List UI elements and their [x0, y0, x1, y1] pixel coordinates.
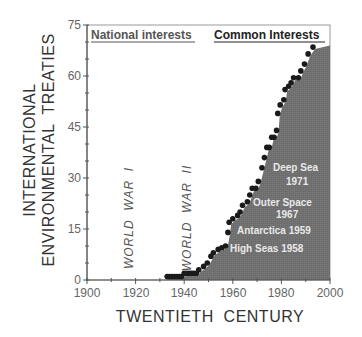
y-tick-30: 30 — [68, 171, 82, 185]
data-point — [253, 185, 259, 191]
data-point — [277, 102, 283, 108]
y-tick-45: 45 — [68, 120, 82, 134]
data-point — [230, 216, 236, 222]
data-point — [256, 179, 262, 185]
data-point — [225, 230, 231, 236]
x-tick-1940: 1940 — [171, 286, 198, 300]
data-point — [298, 68, 304, 74]
data-point — [262, 155, 268, 161]
outer-space-year-label: 1967 — [276, 209, 299, 220]
data-point — [305, 51, 311, 57]
data-point — [245, 199, 251, 205]
data-point — [296, 75, 302, 81]
data-point — [275, 111, 281, 117]
data-point — [274, 128, 280, 134]
data-point — [211, 250, 217, 256]
data-point — [271, 134, 277, 140]
data-point — [204, 260, 210, 266]
high-seas-label: High Seas 1958 — [230, 243, 304, 254]
x-axis-title: TWENTIETH CENTURY — [116, 308, 304, 325]
x-tick-1900: 1900 — [74, 286, 101, 300]
outer-space-label: Outer Space — [253, 197, 312, 208]
common-interests-label: Common Interests — [214, 28, 320, 42]
x-tick-1920: 1920 — [123, 286, 150, 300]
data-point — [259, 165, 265, 171]
data-point — [240, 202, 246, 208]
data-point — [288, 80, 294, 86]
data-point — [281, 97, 287, 103]
y-tick-75: 75 — [68, 18, 82, 32]
y-axis-title-line2: ENVIRONMENTAL TREATIES — [40, 33, 57, 266]
chart: 0 15 30 45 60 75 1900 1920 1940 1960 198… — [0, 0, 362, 337]
deep-sea-label: Deep Sea — [273, 162, 318, 173]
x-tick-2000: 2000 — [317, 286, 344, 300]
x-tick-1960: 1960 — [220, 286, 247, 300]
data-point — [310, 44, 316, 50]
national-interests-label: National interests — [91, 28, 192, 42]
deep-sea-year-label: 1971 — [286, 176, 309, 187]
y-tick-labels: 0 15 30 45 60 75 — [68, 18, 82, 287]
world-war-2-label: WORLD WAR II — [180, 165, 194, 271]
y-tick-60: 60 — [68, 69, 82, 83]
y-tick-0: 0 — [74, 273, 81, 287]
data-point — [237, 209, 243, 215]
data-point — [223, 243, 229, 249]
world-war-1-label: WORLD WAR I — [122, 167, 136, 269]
x-tick-labels: 1900 1920 1940 1960 1980 2000 — [74, 286, 344, 300]
y-axis-title-line1: INTERNATIONAL — [21, 83, 38, 216]
data-point — [291, 75, 297, 81]
y-tick-15: 15 — [68, 222, 82, 236]
data-point — [266, 145, 272, 151]
data-point — [302, 61, 308, 67]
data-point — [196, 267, 202, 273]
antarctica-label: Antarctica 1959 — [237, 225, 311, 236]
data-point — [247, 192, 253, 198]
x-tick-1980: 1980 — [268, 286, 295, 300]
